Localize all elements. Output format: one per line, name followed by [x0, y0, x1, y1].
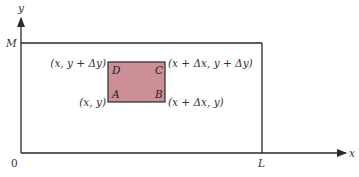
corner-a-coord: (x, y) [79, 96, 106, 108]
region-diagram: y x 0 M L D C A B (x, y + Δy) (x + Δx, y… [0, 0, 359, 177]
x-bound-label: L [257, 157, 265, 169]
y-bound-label: M [5, 37, 17, 49]
corner-a-letter: A [111, 88, 120, 100]
x-axis-label: x [349, 147, 355, 159]
corner-c-letter: C [155, 64, 163, 76]
corner-d-coord: (x, y + Δy) [50, 57, 106, 69]
corner-b-coord: (x + Δx, y) [168, 96, 224, 108]
origin-label: 0 [11, 157, 18, 169]
y-axis-label: y [17, 2, 25, 14]
corner-b-letter: B [154, 88, 163, 100]
corner-c-coord: (x + Δx, y + Δy) [168, 57, 253, 69]
corner-d-letter: D [111, 64, 121, 76]
